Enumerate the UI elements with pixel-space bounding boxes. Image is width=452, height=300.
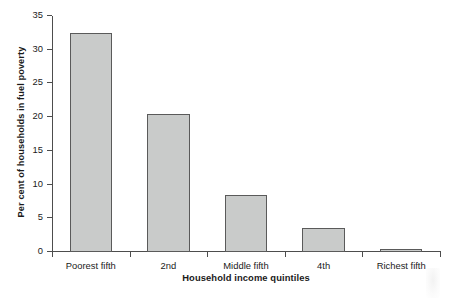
y-tick-5: 5 [47,217,52,218]
bar-poorest-fifth [70,33,112,252]
x-tick [207,252,208,257]
y-tick-35: 35 [47,15,52,16]
y-tick-label: 10 [33,178,43,189]
y-tick-10: 10 [47,184,52,185]
y-tick-30: 30 [47,49,52,50]
y-axis-line [52,16,53,253]
x-tick [440,252,441,257]
x-category-label-4th: 4th [285,260,363,272]
plot-area: 05101520253035 Poorest fifth2ndMiddle fi… [52,16,440,252]
bar-4th [302,228,344,252]
y-tick-label: 30 [33,43,43,54]
y-tick-25: 25 [47,82,52,83]
x-category-label-poorest-fifth: Poorest fifth [52,260,130,272]
y-axis-title: Per cent of households in fuel poverty [16,17,26,247]
bar-2nd [147,114,189,252]
x-tick [285,252,286,257]
y-tick-label: 5 [38,211,43,222]
y-tick-label: 20 [33,110,43,121]
x-tick [52,252,53,257]
x-tick [362,252,363,257]
y-tick-label: 25 [33,76,43,87]
y-tick-label: 0 [38,245,43,256]
x-category-label-2nd: 2nd [130,260,208,272]
y-tick-label: 15 [33,144,43,155]
y-tick-label: 35 [33,9,43,20]
x-tick [130,252,131,257]
y-tick-20: 20 [47,116,52,117]
x-axis-title: Household income quintiles [52,272,440,283]
fuel-poverty-bar-chart: Per cent of households in fuel poverty 0… [0,0,452,300]
bar-richest-fifth [380,249,422,252]
x-category-label-middle-fifth: Middle fifth [207,260,285,272]
y-tick-15: 15 [47,150,52,151]
x-category-label-richest-fifth: Richest fifth [362,260,440,272]
bar-middle-fifth [225,195,267,252]
